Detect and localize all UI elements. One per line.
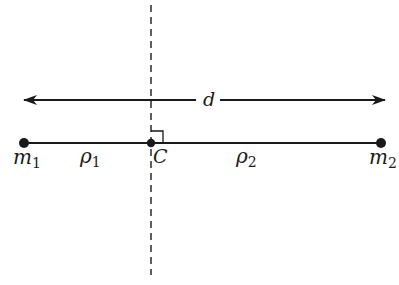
- center-of-mass-diagram: d m1 C m2 ρ1 ρ2: [0, 0, 399, 285]
- distance-label: d: [203, 88, 215, 110]
- label-rho1: ρ1: [79, 144, 101, 170]
- label-m1: m1: [13, 145, 41, 171]
- label-m2: m2: [369, 145, 397, 171]
- label-rho2: ρ2: [235, 144, 257, 170]
- diagram-svg: d m1 C m2 ρ1 ρ2: [0, 0, 399, 285]
- label-c: C: [153, 145, 168, 167]
